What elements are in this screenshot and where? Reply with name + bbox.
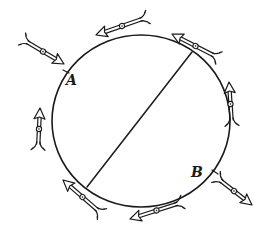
label-a: A xyxy=(64,72,77,88)
dart-arrow-icon xyxy=(212,171,257,210)
diagram-canvas: A B xyxy=(0,0,268,231)
arrows-group xyxy=(18,10,256,225)
diameter-line xyxy=(87,52,192,187)
tick-marks xyxy=(63,70,218,174)
dart-arrow-icon xyxy=(18,33,67,70)
label-b: B xyxy=(190,164,203,180)
dart-arrow-icon xyxy=(169,28,222,64)
dart-arrow-icon xyxy=(31,108,47,151)
dart-arrow-icon xyxy=(222,82,239,127)
circle xyxy=(52,35,230,207)
